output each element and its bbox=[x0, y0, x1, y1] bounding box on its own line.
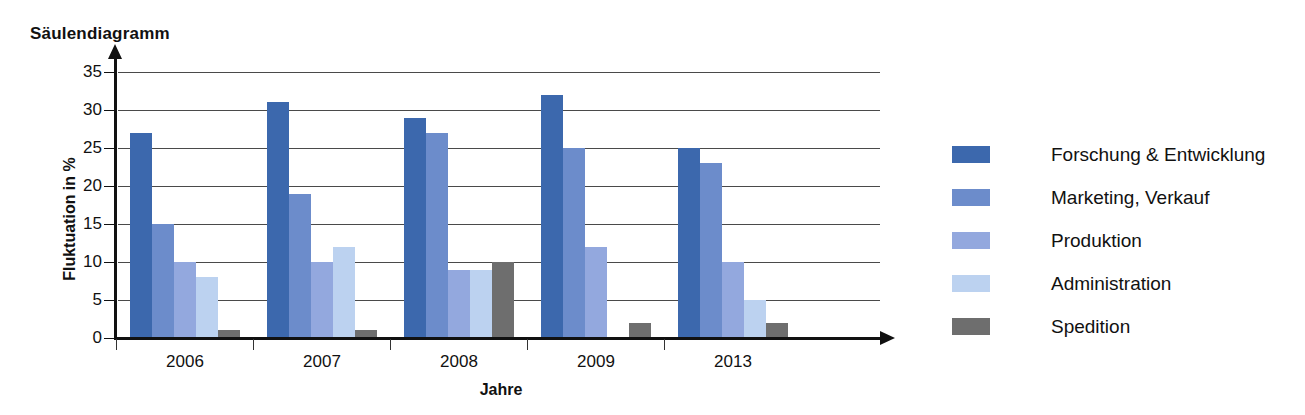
bar-group-2006 bbox=[130, 72, 240, 338]
legend-swatch-icon bbox=[952, 146, 990, 163]
bar bbox=[267, 102, 289, 338]
bar bbox=[492, 262, 514, 338]
bar-group-2009 bbox=[541, 72, 651, 338]
legend: Forschung & EntwicklungMarketing, Verkau… bbox=[952, 133, 1265, 348]
x-axis-category-label-2009: 2009 bbox=[556, 352, 636, 372]
x-axis-category-label-2007: 2007 bbox=[282, 352, 362, 372]
bar bbox=[311, 262, 333, 338]
bar bbox=[404, 118, 426, 338]
y-axis-tick-mark bbox=[104, 148, 114, 149]
legend-item[interactable]: Forschung & Entwicklung bbox=[952, 133, 1265, 176]
y-axis-tick-label: 20 bbox=[68, 176, 102, 196]
legend-label: Marketing, Verkauf bbox=[1051, 187, 1209, 209]
bar bbox=[766, 323, 788, 338]
legend-item[interactable]: Spedition bbox=[952, 305, 1265, 348]
bar bbox=[196, 277, 218, 338]
legend-item[interactable]: Produktion bbox=[952, 219, 1265, 262]
bar bbox=[426, 133, 448, 338]
y-axis-tick-mark bbox=[104, 300, 114, 301]
y-axis-tick-mark bbox=[104, 186, 114, 187]
bar bbox=[563, 148, 585, 338]
legend-swatch-icon bbox=[952, 189, 990, 206]
y-axis-tick-label: 0 bbox=[68, 328, 102, 348]
y-axis-tick-mark bbox=[104, 262, 114, 263]
legend-label: Administration bbox=[1051, 273, 1171, 295]
page-title: Säulendiagramm bbox=[30, 24, 170, 44]
y-axis-tick-label: 5 bbox=[68, 290, 102, 310]
x-axis-tick-mark bbox=[253, 339, 254, 350]
bar bbox=[152, 224, 174, 338]
legend-item[interactable]: Marketing, Verkauf bbox=[952, 176, 1265, 219]
legend-label: Produktion bbox=[1051, 230, 1142, 252]
y-axis-arrow-icon bbox=[108, 44, 122, 59]
legend-swatch-icon bbox=[952, 232, 990, 249]
plot-area bbox=[118, 72, 880, 338]
bar bbox=[541, 95, 563, 338]
x-axis-tick-mark bbox=[527, 339, 528, 350]
bar bbox=[678, 148, 700, 338]
y-axis-tick-mark bbox=[104, 338, 114, 339]
legend-label: Forschung & Entwicklung bbox=[1051, 144, 1265, 166]
y-axis-tick-label: 10 bbox=[68, 252, 102, 272]
y-axis-tick-label: 15 bbox=[68, 214, 102, 234]
bar bbox=[174, 262, 196, 338]
bar bbox=[585, 247, 607, 338]
x-axis-tick-mark bbox=[390, 339, 391, 350]
bar bbox=[333, 247, 355, 338]
bar bbox=[448, 270, 470, 338]
bar bbox=[744, 300, 766, 338]
bar-group-2013 bbox=[678, 72, 788, 338]
x-axis-category-label-2008: 2008 bbox=[419, 352, 499, 372]
y-axis-tick-label: 25 bbox=[68, 138, 102, 158]
x-axis-tick-mark bbox=[116, 339, 117, 350]
legend-item[interactable]: Administration bbox=[952, 262, 1265, 305]
bar bbox=[722, 262, 744, 338]
chart-page: Säulendiagramm Fluktuation in % 05101520… bbox=[0, 0, 1305, 415]
y-axis-tick-mark bbox=[104, 72, 114, 73]
x-axis-arrow-icon bbox=[880, 331, 895, 345]
legend-swatch-icon bbox=[952, 275, 990, 292]
y-axis-tick-label: 35 bbox=[68, 62, 102, 82]
x-axis-category-label-2013: 2013 bbox=[693, 352, 773, 372]
x-axis-tick-mark bbox=[664, 339, 665, 350]
bar bbox=[470, 270, 492, 338]
bar bbox=[130, 133, 152, 338]
bar bbox=[700, 163, 722, 338]
legend-label: Spedition bbox=[1051, 316, 1130, 338]
x-axis-label: Jahre bbox=[431, 381, 571, 399]
x-axis-category-label-2006: 2006 bbox=[145, 352, 225, 372]
y-axis-tick-mark bbox=[104, 110, 114, 111]
y-axis-tick-mark bbox=[104, 224, 114, 225]
bar bbox=[289, 194, 311, 338]
x-axis-line bbox=[114, 337, 882, 340]
y-axis-line bbox=[114, 56, 117, 340]
y-axis-tick-label: 30 bbox=[68, 100, 102, 120]
bar bbox=[629, 323, 651, 338]
y-axis-tick-labels: 05101520253035 bbox=[66, 72, 102, 338]
bar-group-2008 bbox=[404, 72, 514, 338]
legend-swatch-icon bbox=[952, 318, 990, 335]
bar-group-2007 bbox=[267, 72, 377, 338]
